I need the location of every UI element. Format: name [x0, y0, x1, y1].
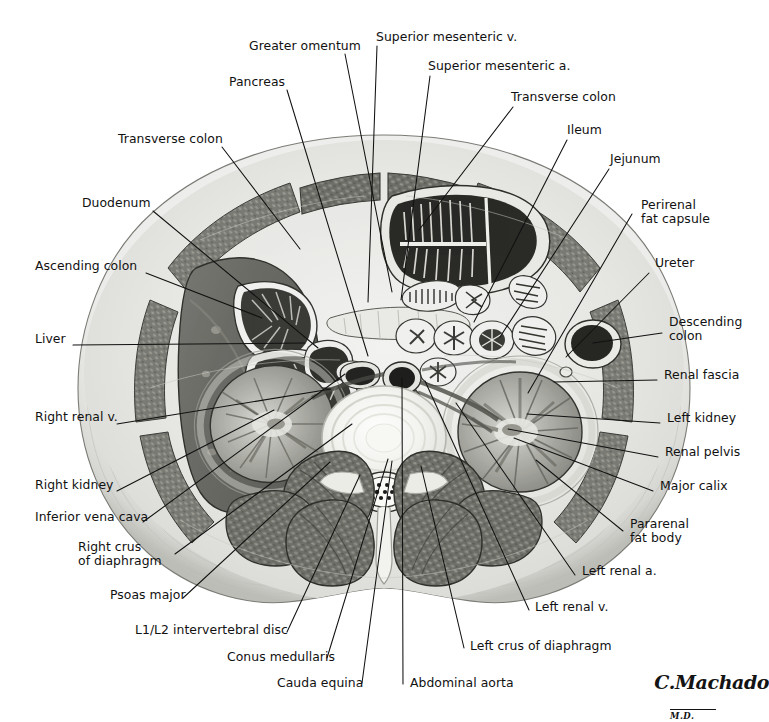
anatomy-figure: Greater omentum Superior mesenteric v. S…	[0, 0, 769, 722]
label-renal-fascia: Renal fascia	[664, 368, 739, 382]
leader-renal-fascia	[554, 380, 657, 382]
leader-psoas-major	[183, 462, 330, 598]
label-liver: Liver	[35, 332, 66, 346]
leader-transverse-colon-right	[419, 107, 513, 230]
leader-left-renal-v	[425, 381, 529, 610]
label-psoas-major: Psoas major	[110, 588, 186, 602]
label-inferior-vena-cava: Inferior vena cava	[35, 510, 148, 524]
label-superior-mesenteric-v: Superior mesenteric v.	[376, 30, 517, 44]
label-jejunum: Jejunum	[610, 152, 661, 166]
leader-ileum	[474, 140, 567, 322]
leader-right-renal-v	[117, 389, 331, 424]
label-right-kidney: Right kidney	[35, 478, 113, 492]
label-descending-colon: Descending colon	[669, 315, 742, 344]
label-duodenum: Duodenum	[82, 196, 151, 210]
label-renal-pelvis: Renal pelvis	[665, 445, 740, 459]
leader-renal-pelvis	[508, 429, 658, 457]
label-right-crus-of-diaphragm: Right crus of diaphragm	[78, 540, 162, 569]
label-ileum: Ileum	[567, 123, 602, 137]
label-ascending-colon: Ascending colon	[35, 259, 137, 273]
label-pancreas: Pancreas	[229, 75, 285, 89]
leader-major-calix	[514, 438, 653, 491]
label-left-renal-a: Left renal a.	[582, 564, 657, 578]
leader-perirenal-fat-capsule	[528, 214, 632, 393]
leader-duodenum	[153, 211, 318, 348]
leader-inferior-vena-cava	[143, 374, 345, 522]
leader-liver	[73, 343, 305, 345]
label-left-crus-of-diaphragm: Left crus of diaphragm	[470, 639, 612, 653]
signature-credential: M.D.	[670, 709, 716, 721]
leader-superior-mesenteric-v	[368, 46, 377, 302]
label-major-calix: Major calix	[660, 479, 728, 493]
label-right-renal-v: Right renal v.	[35, 410, 118, 424]
leader-superior-mesenteric-a	[401, 76, 430, 300]
label-transverse-colon-right: Transverse colon	[511, 90, 616, 104]
label-l1-l2-intervertebral-disc: L1/L2 intervertebral disc	[135, 623, 288, 637]
label-ureter: Ureter	[655, 256, 694, 270]
label-perirenal-fat-capsule: Perirenal fat capsule	[641, 198, 710, 227]
leader-lines	[0, 0, 769, 722]
leader-ureter	[566, 273, 649, 357]
leader-right-crus-of-diaphragm	[175, 424, 352, 554]
leader-pancreas	[287, 90, 368, 356]
leader-abdominal-aorta	[402, 378, 403, 684]
leader-transverse-colon-left	[222, 147, 300, 249]
label-abdominal-aorta: Abdominal aorta	[410, 676, 514, 690]
leader-left-kidney	[527, 414, 660, 423]
label-left-renal-v: Left renal v.	[535, 600, 608, 614]
label-superior-mesenteric-a: Superior mesenteric a.	[428, 59, 570, 73]
leader-l1-l2-intervertebral-disc	[287, 475, 360, 632]
artist-signature: C.Machado M.D.	[634, 652, 769, 722]
signature-name: C.Machado	[654, 671, 769, 693]
leader-greater-omentum	[345, 54, 392, 292]
leader-pararenal-fat-body	[536, 460, 623, 531]
label-transverse-colon-left: Transverse colon	[118, 132, 223, 146]
leader-descending-colon	[593, 333, 662, 343]
label-conus-medullaris: Conus medullaris	[227, 650, 335, 664]
label-greater-omentum: Greater omentum	[249, 39, 361, 53]
leader-right-kidney	[117, 410, 274, 491]
label-left-kidney: Left kidney	[667, 411, 736, 425]
label-pararenal-fat-body: Pararenal fat body	[630, 517, 689, 546]
leader-ascending-colon	[146, 273, 262, 318]
leader-left-crus-of-diaphragm	[421, 466, 464, 648]
leader-jejunum	[500, 169, 609, 337]
label-cauda-equina: Cauda equina	[277, 676, 363, 690]
